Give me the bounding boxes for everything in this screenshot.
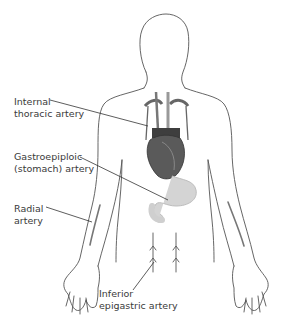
label-line: artery	[14, 215, 43, 227]
label-line: Gastroepiploic	[14, 151, 94, 163]
label-radial-artery: Radial artery	[14, 203, 43, 227]
label-line: Inferior	[99, 288, 178, 300]
stomach	[151, 176, 196, 222]
label-line: thoracic artery	[14, 108, 84, 120]
label-line: Radial	[14, 203, 43, 215]
label-internal-thoracic-artery: Internal thoracic artery	[14, 96, 84, 120]
radial-artery-left	[90, 205, 100, 245]
heart	[147, 128, 184, 179]
leader-lines	[46, 100, 168, 290]
label-inferior-epigastric-artery: Inferior epigastric artery	[99, 288, 178, 312]
inferior-epigastric-arteries	[150, 233, 179, 272]
label-line: (stomach) artery	[14, 163, 94, 175]
label-line: epigastric artery	[99, 300, 178, 312]
label-gastroepiploic-artery: Gastroepiploic (stomach) artery	[14, 151, 94, 175]
radial-artery-right	[228, 202, 244, 246]
label-line: Internal	[14, 96, 84, 108]
